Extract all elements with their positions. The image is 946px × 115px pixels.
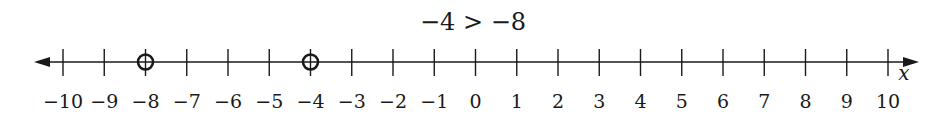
left-arrow-icon: [34, 57, 50, 67]
tick-label: −4: [296, 90, 324, 112]
tick-label: 2: [552, 90, 564, 112]
tick-label: 8: [799, 90, 811, 112]
tick-label: 5: [676, 90, 688, 112]
tick-label: −10: [43, 90, 83, 112]
tick-label: −3: [338, 90, 366, 112]
number-line-axis: [34, 57, 919, 67]
inequality-title: −4 > −8: [420, 8, 526, 36]
tick-label: 7: [758, 90, 770, 112]
tick-label: 1: [511, 90, 523, 112]
axis-variable-label: x: [898, 61, 909, 85]
tick-label: 3: [593, 90, 605, 112]
tick-label: −9: [90, 90, 118, 112]
tick-label: −7: [173, 90, 201, 112]
tick-label: 10: [876, 90, 900, 112]
tick-label: −6: [214, 90, 242, 112]
tick-label: −8: [131, 90, 159, 112]
tick-label: −2: [379, 90, 407, 112]
number-line-diagram: −4 > −8 −10−9−8−7−6−5−4−3−2−101234567891…: [0, 0, 946, 115]
tick-marks: [63, 49, 888, 76]
tick-label: −1: [420, 90, 448, 112]
tick-label: 9: [841, 90, 853, 112]
tick-label: 0: [469, 90, 481, 112]
tick-labels: −10−9−8−7−6−5−4−3−2−1012345678910: [43, 90, 900, 112]
tick-label: −5: [255, 90, 283, 112]
tick-label: 4: [634, 90, 646, 112]
tick-label: 6: [717, 90, 729, 112]
